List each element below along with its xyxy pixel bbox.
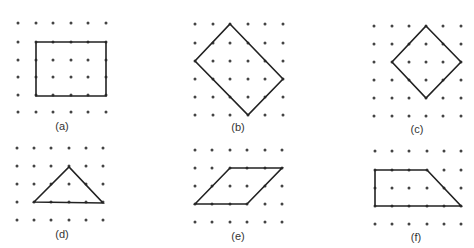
grid-dot — [391, 150, 394, 153]
figure-d: (d) — [16, 147, 105, 241]
grid-dot — [281, 149, 284, 152]
grid-dot — [443, 223, 446, 226]
grid-dot — [460, 150, 463, 153]
grid-dot — [264, 149, 267, 152]
figure-label: (c) — [411, 123, 424, 135]
grid-dot — [374, 150, 377, 153]
figure-c: (c) — [373, 25, 463, 136]
grid-dot — [16, 183, 19, 186]
grid-dot — [229, 221, 232, 224]
grid-dot — [33, 147, 36, 150]
grid-dot — [229, 149, 232, 152]
trapezoid-shape — [375, 170, 461, 206]
grid-dot — [373, 43, 376, 46]
grid-dot — [85, 219, 88, 222]
grid-dot — [426, 187, 429, 190]
grid-dot — [247, 96, 250, 99]
parallelogram-shape — [195, 168, 282, 204]
grid-dot — [373, 25, 376, 28]
grid-dot — [229, 78, 232, 81]
grid-dot — [87, 76, 90, 79]
grid-dot — [460, 43, 463, 46]
grid-dot — [442, 97, 445, 100]
grid-dot — [425, 61, 428, 64]
grid-dot — [85, 147, 88, 150]
grid-dot — [425, 79, 428, 82]
grid-dot — [16, 201, 19, 204]
grid-dot — [408, 223, 411, 226]
grid-dot — [391, 115, 394, 118]
grid-dot — [425, 115, 428, 118]
grid-dot — [33, 183, 36, 186]
grid-dot — [229, 114, 232, 117]
grid-dot — [68, 147, 71, 150]
grid-dot — [17, 59, 20, 62]
grid-dot — [247, 60, 250, 63]
grid-dot — [391, 187, 394, 190]
grid-dot — [281, 203, 284, 206]
grid-dot — [282, 42, 285, 45]
rectangle-shape — [36, 42, 106, 96]
grid-dot — [194, 42, 197, 45]
grid-dot — [264, 78, 267, 81]
grid-dot — [391, 43, 394, 46]
dot-grid-figures: (a) (b) (c) (d) (e) (f) — [0, 0, 474, 248]
grid-dot — [391, 223, 394, 226]
grid-dot — [391, 97, 394, 100]
grid-dot — [408, 97, 411, 100]
dot-grid — [194, 149, 284, 224]
grid-dot — [247, 23, 250, 26]
grid-dot — [373, 79, 376, 82]
grid-dot — [52, 59, 55, 62]
grid-dot — [282, 60, 285, 63]
dot-grid — [194, 23, 285, 117]
grid-dot — [17, 94, 20, 97]
grid-dot — [264, 114, 267, 117]
grid-dot — [33, 165, 36, 168]
grid-dot — [70, 111, 73, 114]
grid-dot — [68, 183, 71, 186]
grid-dot — [373, 97, 376, 100]
figure-label: (a) — [55, 120, 68, 132]
figure-a: (a) — [17, 22, 108, 133]
grid-dot — [87, 22, 90, 25]
grid-dot — [281, 221, 284, 224]
grid-dot — [85, 165, 88, 168]
grid-dot — [17, 76, 20, 79]
figure-f: (f) — [374, 150, 463, 244]
dot-grid — [374, 150, 463, 226]
grid-dot — [105, 111, 108, 114]
figure-label: (f) — [411, 231, 421, 243]
grid-dot — [194, 78, 197, 81]
grid-dot — [52, 22, 55, 25]
grid-dot — [442, 61, 445, 64]
figure-label: (b) — [231, 121, 244, 133]
figure-label: (e) — [231, 230, 244, 242]
grid-dot — [460, 169, 463, 172]
dot-grid — [17, 22, 108, 114]
grid-dot — [68, 219, 71, 222]
grid-dot — [212, 23, 215, 26]
grid-dot — [212, 96, 215, 99]
grid-dot — [246, 185, 249, 188]
grid-dot — [211, 167, 214, 170]
grid-dot — [50, 219, 53, 222]
grid-dot — [87, 59, 90, 62]
grid-dot — [50, 147, 53, 150]
grid-dot — [70, 76, 73, 79]
grid-dot — [460, 115, 463, 118]
grid-dot — [17, 41, 20, 44]
grid-dot — [52, 111, 55, 114]
grid-dot — [17, 111, 20, 114]
figure-b: (b) — [194, 23, 285, 134]
grid-dot — [264, 42, 267, 45]
grid-dot — [35, 22, 38, 25]
grid-dot — [282, 96, 285, 99]
grid-dot — [408, 25, 411, 28]
dot-grid — [373, 25, 463, 118]
grid-dot — [425, 43, 428, 46]
grid-dot — [246, 149, 249, 152]
grid-dot — [443, 169, 446, 172]
grid-dot — [16, 165, 19, 168]
grid-dot — [212, 114, 215, 117]
